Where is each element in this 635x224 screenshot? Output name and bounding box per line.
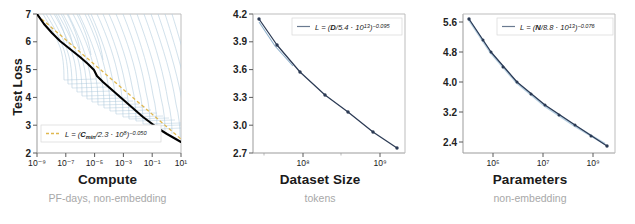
- compute-training-curves: [43, 14, 196, 137]
- params-fit-line: [469, 19, 607, 146]
- params-legend: L = (N/8.8 · 1013)−0.076: [497, 18, 613, 35]
- params-plot: 5.6 4.8 4.0 3.2 2.4 10⁵ 10⁷ 10⁹: [425, 0, 635, 170]
- params-secondary-branch: [469, 20, 605, 144]
- dataset-xtick-0: 10⁸: [296, 158, 310, 168]
- dataset-ytick-1: 3.9: [233, 36, 247, 47]
- dataset-legend: L = (D/5.4 · 1013)−0.095: [292, 18, 402, 35]
- dataset-ytick-3: 3.3: [233, 92, 247, 103]
- dataset-ytick-4: 3.0: [233, 120, 247, 131]
- dataset-x-axis-sublabel: tokens: [215, 192, 425, 204]
- params-ytick-2: 4.0: [443, 77, 457, 88]
- params-x-axis-label: Parameters: [425, 172, 635, 187]
- compute-x-ticks: 10⁻⁹ 10⁻⁷ 10⁻⁵ 10⁻³ 10⁻¹ 10¹: [28, 153, 187, 168]
- compute-y-axis-label: Test Loss: [11, 47, 25, 127]
- scaling-laws-figure: 7 6 5 4 3 2 10⁻⁹ 10⁻⁷ 10⁻⁵ 10⁻³ 10⁻¹: [0, 0, 635, 224]
- panel-params: 5.6 4.8 4.0 3.2 2.4 10⁵ 10⁷ 10⁹: [425, 0, 635, 224]
- params-ytick-0: 5.6: [443, 17, 457, 28]
- compute-ytick-3: 4: [25, 92, 31, 103]
- compute-xtick-3: 10⁻³: [115, 158, 132, 168]
- compute-ytick-0: 7: [25, 9, 31, 20]
- compute-plot: 7 6 5 4 3 2 10⁻⁹ 10⁻⁷ 10⁻⁵ 10⁻³ 10⁻¹: [0, 0, 215, 170]
- dataset-ytick-0: 4.2: [233, 9, 247, 20]
- compute-xtick-2: 10⁻⁵: [86, 158, 104, 168]
- dataset-ytick-5: 2.7: [233, 148, 247, 159]
- dataset-ytick-2: 3.6: [233, 64, 247, 75]
- params-xtick-1: 10⁷: [537, 158, 550, 168]
- compute-xtick-5: 10¹: [175, 158, 188, 168]
- compute-frontier-line: [37, 14, 181, 142]
- panel-dataset: 4.2 3.9 3.6 3.3 3.0 2.7 10⁸ 10⁹: [215, 0, 425, 224]
- compute-xtick-4: 10⁻¹: [144, 158, 161, 168]
- params-ytick-4: 2.4: [443, 137, 457, 148]
- compute-ytick-4: 3: [25, 120, 31, 131]
- params-data-points: [467, 17, 608, 147]
- compute-xtick-1: 10⁻⁷: [57, 158, 74, 168]
- compute-x-axis-sublabel: PF-days, non-embedding: [0, 192, 215, 204]
- dataset-x-axis-label: Dataset Size: [215, 172, 425, 187]
- compute-ytick-2: 5: [25, 64, 31, 75]
- params-x-ticks: 10⁵ 10⁷ 10⁹: [486, 153, 599, 168]
- dataset-data-points: [257, 17, 398, 149]
- params-ytick-3: 3.2: [443, 107, 457, 118]
- params-xtick-0: 10⁵: [486, 158, 500, 168]
- params-y-ticks: 5.6 4.8 4.0 3.2 2.4: [443, 17, 463, 148]
- dataset-plot: 4.2 3.9 3.6 3.3 3.0 2.7 10⁸ 10⁹: [215, 0, 425, 170]
- compute-y-ticks: 7 6 5 4 3 2: [25, 9, 37, 159]
- dataset-fit-line: [259, 19, 397, 148]
- compute-xtick-0: 10⁻⁹: [28, 158, 46, 168]
- dataset-x-ticks: 10⁸ 10⁹: [264, 153, 387, 168]
- compute-ytick-1: 6: [25, 36, 31, 47]
- params-ytick-1: 4.8: [443, 47, 457, 58]
- params-xtick-2: 10⁹: [586, 158, 600, 168]
- compute-x-axis-label: Compute: [0, 172, 215, 187]
- compute-legend: L = (Cmin/2.3 · 108)−0.050: [41, 125, 161, 142]
- compute-ytick-5: 2: [25, 148, 31, 159]
- dataset-y-ticks: 4.2 3.9 3.6 3.3 3.0 2.7: [233, 9, 253, 159]
- params-x-axis-sublabel: non-embedding: [425, 192, 635, 204]
- panel-compute: 7 6 5 4 3 2 10⁻⁹ 10⁻⁷ 10⁻⁵ 10⁻³ 10⁻¹: [0, 0, 215, 224]
- dataset-xtick-1: 10⁹: [373, 158, 387, 168]
